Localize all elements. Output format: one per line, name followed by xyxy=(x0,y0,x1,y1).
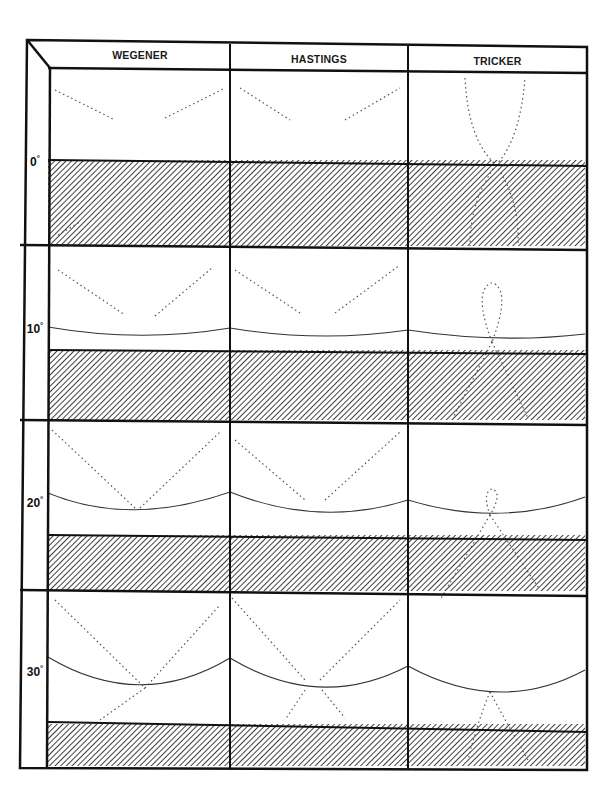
degree-symbol: ° xyxy=(37,154,40,163)
angle-value: 30 xyxy=(27,665,40,679)
degree-symbol: ° xyxy=(40,495,43,504)
row-label-10-degrees: 10° xyxy=(22,321,48,336)
column-header-hastings: HASTINGS xyxy=(230,53,408,65)
angle-value: 20 xyxy=(27,496,40,510)
angle-value: 10 xyxy=(27,322,40,336)
row-label-30-degrees: 30° xyxy=(22,664,48,679)
row-label-0-degrees: 0° xyxy=(22,154,48,169)
hatched-bands xyxy=(48,160,585,766)
comparison-diagram xyxy=(0,0,616,802)
row-label-20-degrees: 20° xyxy=(22,495,48,510)
column-header-tricker: TRICKER xyxy=(408,55,587,67)
angle-value: 0 xyxy=(30,155,37,169)
degree-symbol: ° xyxy=(40,664,43,673)
column-header-wegener: WEGENER xyxy=(50,49,230,61)
degree-symbol: ° xyxy=(40,321,43,330)
